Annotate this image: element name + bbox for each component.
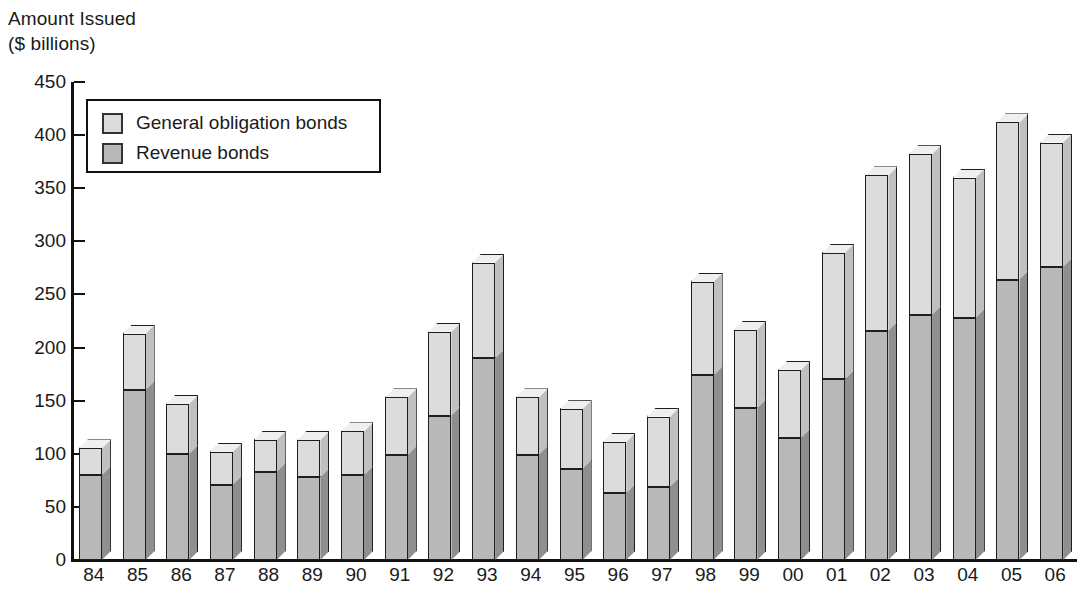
bar-02-general-obligation-front [865,175,888,330]
bar-00-general-obligation-front [778,370,801,438]
bar-87-revenue-front [210,485,233,560]
bar-98 [691,273,723,560]
bar-90-general-obligation-front [341,431,364,475]
bar-87 [210,443,242,560]
bar-04-general-obligation-front [953,178,976,318]
bar-98-revenue-front [691,375,714,560]
chart-axis-title: Amount Issued ($ billions) [8,6,136,56]
bar-89-revenue-side [320,468,329,560]
bar-84-revenue-front [79,475,102,560]
bar-95-general-obligation-front [560,409,583,468]
bar-93-revenue-front [472,358,495,560]
bar-89-revenue-front [297,477,320,560]
bar-02-general-obligation-side [888,166,897,330]
bar-01 [822,244,854,560]
bar-99-revenue-front [734,408,757,560]
chart-legend: General obligation bonds Revenue bonds [86,99,381,173]
legend-label-general-obligation-bonds: General obligation bonds [136,112,347,134]
bar-06-general-obligation-side [1063,134,1072,267]
bar-00-revenue-front [778,438,801,560]
bar-01-revenue-front [822,379,845,560]
bar-85-general-obligation-side [146,325,155,390]
bar-04 [953,169,985,560]
bar-92-general-obligation-front [428,332,451,416]
bar-92-general-obligation-side [451,323,460,416]
bar-90-revenue-front [341,475,364,560]
bar-88-general-obligation-front [254,440,277,472]
bar-92 [428,323,460,560]
bar-89 [297,431,329,560]
bar-99-revenue-side [757,399,766,560]
bar-01-general-obligation-front [822,253,845,379]
bar-05-general-obligation-front [996,122,1019,279]
bar-03-general-obligation-side [932,145,941,314]
bar-95-revenue-front [560,469,583,560]
bar-84 [79,439,111,560]
legend-swatch-general-obligation-bonds [102,113,123,134]
bar-06-revenue-front [1040,267,1063,560]
x-tick-label-06: 06 [1025,564,1077,586]
bar-03-revenue-side [932,306,941,560]
bar-05-revenue-front [996,280,1019,560]
bar-92-revenue-side [451,407,460,560]
bar-03 [909,145,941,560]
bar-88-revenue-side [277,463,286,560]
legend-item-revenue-bonds: Revenue bonds [102,138,379,168]
bar-97-revenue-front [647,487,670,560]
bar-92-revenue-front [428,416,451,560]
bar-84-revenue-side [102,466,111,560]
bar-01-revenue-side [845,370,854,560]
bar-86-general-obligation-front [166,404,189,454]
y-tick-label-100: 100 [34,443,66,465]
bar-86-general-obligation-side [189,395,198,454]
bar-02 [865,166,897,560]
bar-85-general-obligation-front [123,334,146,390]
bar-85-revenue-front [123,390,146,560]
bar-97-general-obligation-front [647,417,670,487]
bar-96-general-obligation-front [603,442,626,493]
bar-88-revenue-front [254,472,277,560]
bar-94 [516,388,548,560]
bar-06-revenue-side [1063,258,1072,560]
bar-86-revenue-front [166,454,189,560]
bar-98-general-obligation-side [714,273,723,375]
y-tick-label-50: 50 [45,496,66,518]
bar-03-general-obligation-front [909,154,932,314]
legend-swatch-revenue-bonds [102,143,123,164]
bar-96-revenue-front [603,493,626,560]
bond-issuance-chart: Amount Issued ($ billions) 0501001502002… [0,0,1077,591]
bar-86-revenue-side [189,445,198,560]
bar-87-revenue-side [233,476,242,560]
bar-97-revenue-side [670,478,679,560]
bar-95-revenue-side [583,460,592,560]
y-tick-label-400: 400 [34,124,66,146]
bar-95-general-obligation-side [583,400,592,468]
bar-02-revenue-side [888,322,897,560]
bar-84-general-obligation-front [79,448,102,475]
bar-05-revenue-side [1019,271,1028,560]
bar-00-revenue-side [801,429,810,560]
bar-90 [341,422,373,560]
bar-94-general-obligation-side [539,388,548,454]
bar-96 [603,433,635,560]
bar-01-general-obligation-side [845,244,854,379]
bar-97-general-obligation-side [670,408,679,487]
bar-96-general-obligation-side [626,433,635,493]
y-tick-label-300: 300 [34,230,66,252]
bar-00-general-obligation-side [801,361,810,438]
bar-85 [123,325,155,560]
y-tick-label-250: 250 [34,283,66,305]
legend-item-general-obligation-bonds: General obligation bonds [102,108,379,138]
bar-05 [996,113,1028,560]
bar-98-general-obligation-front [691,282,714,375]
bar-93-revenue-side [495,349,504,560]
legend-label-revenue-bonds: Revenue bonds [136,142,269,164]
bar-94-revenue-front [516,455,539,560]
bar-97 [647,408,679,560]
bar-90-revenue-side [364,466,373,560]
bar-88 [254,431,286,560]
bar-93-general-obligation-side [495,254,504,359]
bar-90-general-obligation-side [364,422,373,475]
bar-05-general-obligation-side [1019,113,1028,279]
y-tick-label-450: 450 [34,71,66,93]
